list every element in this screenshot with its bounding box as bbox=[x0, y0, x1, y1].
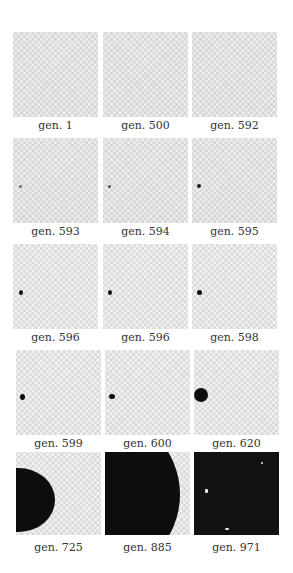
panel-gen-971: gen. 971 bbox=[194, 452, 280, 558]
noise-field-image bbox=[13, 244, 98, 329]
noise-field-image bbox=[194, 350, 279, 435]
nucleus-dot bbox=[19, 185, 22, 188]
cluster-blob bbox=[16, 468, 55, 532]
panel-label: gen. 596 bbox=[103, 331, 188, 344]
noise-field-image bbox=[105, 452, 190, 535]
panel-gen-599: gen. 599 bbox=[16, 350, 102, 456]
noise-field-image bbox=[105, 350, 190, 435]
panel-label: gen. 599 bbox=[16, 437, 101, 450]
panel-gen-1: gen. 1 bbox=[13, 32, 99, 138]
panel-label: gen. 600 bbox=[105, 437, 190, 450]
panel-label: gen. 594 bbox=[103, 225, 188, 238]
residual-speck bbox=[261, 462, 263, 464]
panel-gen-620: gen. 620 bbox=[194, 350, 280, 456]
panel-label: gen. 500 bbox=[103, 119, 188, 132]
cluster-blob bbox=[105, 452, 180, 535]
panel-label: gen. 595 bbox=[192, 225, 277, 238]
noise-field-image bbox=[13, 138, 98, 223]
panel-label: gen. 725 bbox=[16, 541, 101, 554]
panel-label: gen. 593 bbox=[13, 225, 98, 238]
panel-label: gen. 620 bbox=[194, 437, 279, 450]
panel-gen-593: gen. 593 bbox=[13, 138, 99, 244]
panel-gen-600: gen. 600 bbox=[105, 350, 191, 456]
panel-label: gen. 1 bbox=[13, 119, 98, 132]
noise-field-image bbox=[103, 244, 188, 329]
panel-gen-598: gen. 598 bbox=[192, 244, 278, 350]
panel-label: gen. 596 bbox=[13, 331, 98, 344]
noise-field-image bbox=[192, 138, 277, 223]
nucleus-dot bbox=[109, 394, 115, 399]
panel-label: gen. 598 bbox=[192, 331, 277, 344]
residual-speck bbox=[205, 489, 208, 493]
nucleus-dot bbox=[108, 185, 111, 188]
panel-gen-596-a: gen. 596 bbox=[13, 244, 99, 350]
panel-label: gen. 885 bbox=[105, 541, 190, 554]
noise-field-image bbox=[192, 244, 277, 329]
nucleus-dot bbox=[20, 394, 25, 400]
panel-gen-500: gen. 500 bbox=[103, 32, 189, 138]
cluster-blob bbox=[194, 388, 208, 402]
panel-gen-596-b: gen. 596 bbox=[103, 244, 189, 350]
noise-field-image bbox=[13, 32, 98, 117]
panel-gen-594: gen. 594 bbox=[103, 138, 189, 244]
panel-gen-595: gen. 595 bbox=[192, 138, 278, 244]
figure-grid: gen. 1 gen. 500 gen. 592 gen. 593 gen. 5… bbox=[0, 0, 293, 573]
panel-label: gen. 592 bbox=[192, 119, 277, 132]
panel-label: gen. 971 bbox=[194, 541, 279, 554]
filled-field-image bbox=[194, 452, 279, 535]
panel-gen-725: gen. 725 bbox=[16, 452, 102, 558]
nucleus-dot bbox=[197, 290, 202, 295]
nucleus-dot bbox=[108, 290, 112, 295]
nucleus-dot bbox=[19, 290, 23, 295]
noise-field-image bbox=[16, 350, 101, 435]
panel-gen-885: gen. 885 bbox=[105, 452, 191, 558]
noise-field-image bbox=[16, 452, 101, 535]
panel-gen-592: gen. 592 bbox=[192, 32, 278, 138]
residual-speck bbox=[225, 528, 229, 530]
noise-field-image bbox=[103, 138, 188, 223]
noise-field-image bbox=[103, 32, 188, 117]
noise-field-image bbox=[192, 32, 277, 117]
nucleus-dot bbox=[197, 184, 201, 188]
